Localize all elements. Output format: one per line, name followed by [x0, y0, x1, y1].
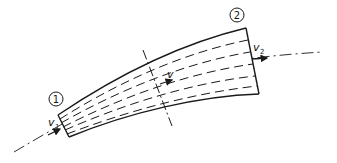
section-1-label: 1: [53, 94, 59, 105]
section-2-marker: 2: [230, 8, 244, 22]
diagram-svg: 1 2 v 1 v v 2: [0, 0, 337, 163]
section-2-label: 2: [234, 10, 240, 21]
v1-symbol: v: [48, 116, 55, 129]
v-symbol: v: [167, 68, 174, 81]
v2-symbol: v: [253, 41, 260, 54]
v2-subscript: 2: [260, 48, 264, 56]
stream-tube-diagram: 1 2 v 1 v v 2: [0, 0, 337, 163]
v2-arrow: [252, 58, 267, 59]
section-1-marker: 1: [49, 92, 63, 106]
v1-subscript: 1: [55, 123, 59, 131]
